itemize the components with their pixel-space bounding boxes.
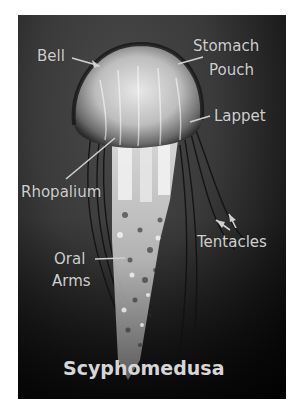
label-oral-arms-line1: Oral — [54, 251, 85, 267]
oral-arms-shape — [112, 140, 178, 380]
label-stomach-pouch-line2: Pouch — [209, 62, 254, 78]
diagram-title: Scyphomedusa — [63, 357, 224, 379]
oral-arms-pointer — [95, 258, 125, 259]
label-bell: Bell — [37, 48, 65, 64]
label-lappet: Lappet — [214, 108, 266, 124]
label-oral-arms-line2: Arms — [52, 273, 91, 289]
bell-shape — [74, 44, 203, 148]
label-tentacles: Tentacles — [197, 234, 267, 250]
label-rhopalium: Rhopalium — [21, 184, 101, 200]
label-stomach-pouch-line1: Stomach — [193, 38, 259, 54]
